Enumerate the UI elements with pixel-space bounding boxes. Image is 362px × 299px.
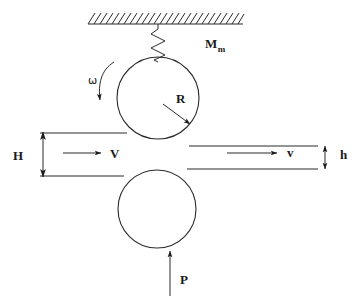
moment-label-subscript: m xyxy=(218,44,226,54)
ceiling-hatching xyxy=(88,13,244,24)
exit-strip-lines xyxy=(187,146,318,169)
radius-leader xyxy=(163,104,190,124)
entry-velocity-label: V xyxy=(110,146,120,161)
angular-velocity-arc xyxy=(99,62,114,100)
moment-label-base: M xyxy=(205,36,217,51)
spring xyxy=(151,24,165,62)
radius-arrow xyxy=(163,104,190,124)
upper-roll xyxy=(117,57,199,139)
force-label: P xyxy=(180,272,188,287)
rolling-mill-diagram: Mm ω R H h V v P xyxy=(0,0,362,299)
spring-coil xyxy=(151,24,165,62)
ceiling-support xyxy=(88,13,244,24)
moment-label: Mm xyxy=(205,36,226,54)
lower-roll xyxy=(118,170,196,248)
exit-velocity-label: v xyxy=(287,145,294,160)
diagram-canvas: Mm ω R H h V v P xyxy=(0,0,362,299)
exit-thickness-label: h xyxy=(340,147,348,162)
omega-arrow xyxy=(99,62,114,100)
radius-label: R xyxy=(176,91,186,106)
omega-label: ω xyxy=(88,74,97,87)
entry-thickness-label: H xyxy=(13,148,23,163)
